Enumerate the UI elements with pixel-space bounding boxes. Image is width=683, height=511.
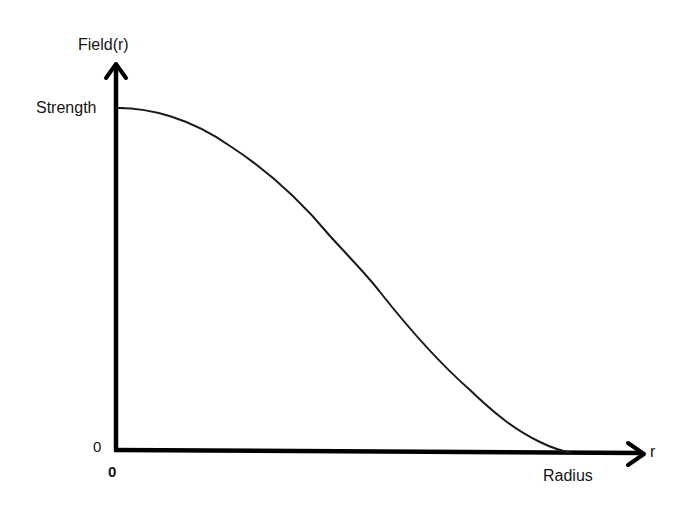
field-curve: [118, 108, 572, 453]
y-tick-zero: 0: [93, 439, 101, 455]
x-tick-radius: Radius: [543, 468, 593, 484]
x-tick-zero: 0: [108, 464, 116, 480]
y-tick-strength: Strength: [36, 100, 96, 116]
x-axis-title: r: [650, 444, 655, 460]
y-axis-title: Field(r): [78, 37, 129, 53]
chart-plot-area: [0, 0, 683, 511]
